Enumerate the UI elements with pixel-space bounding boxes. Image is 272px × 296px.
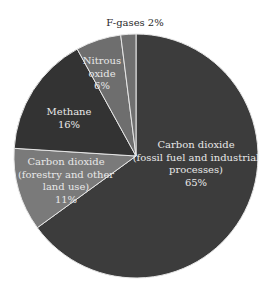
label-fossil-line1: Carbon dioxide (133, 139, 260, 152)
label-fossil-pct: 65% (133, 177, 260, 190)
label-forestry-pct: 11% (18, 194, 114, 207)
label-methane-line1: Methane (47, 106, 92, 119)
label-f-gases-text: F-gases 2% (106, 17, 163, 30)
label-methane-pct: 16% (47, 119, 92, 132)
label-forestry-line2: (forestry and other (18, 169, 114, 182)
label-forestry-line3: land use) (18, 181, 114, 194)
label-nitrous-line2: oxide (83, 68, 121, 81)
label-fossil-line2: (fossil fuel and industrial (133, 152, 260, 165)
pie-chart: F-gases 2% Nitrous oxide 6% Methane 16% … (0, 0, 272, 296)
label-forestry-line1: Carbon dioxide (18, 156, 114, 169)
label-f-gases: F-gases 2% (106, 17, 163, 30)
label-nitrous-oxide: Nitrous oxide 6% (83, 55, 121, 93)
label-nitrous-line1: Nitrous (83, 55, 121, 68)
label-co2-forestry: Carbon dioxide (forestry and other land … (18, 156, 114, 206)
label-fossil-line3: processes) (133, 164, 260, 177)
label-methane: Methane 16% (47, 106, 92, 131)
label-co2-fossil: Carbon dioxide (fossil fuel and industri… (133, 139, 260, 189)
label-nitrous-pct: 6% (83, 80, 121, 93)
